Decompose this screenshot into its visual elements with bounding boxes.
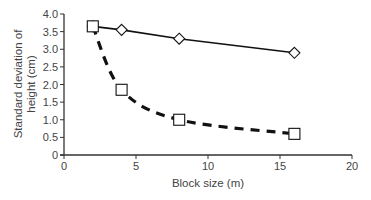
y-axis-label-group: Standard deviation ofheight (cm) xyxy=(12,29,37,138)
y-axis-ticks: 00.51.01.52.02.53.03.54.0 xyxy=(43,8,64,161)
x-tick-label: 5 xyxy=(133,160,139,172)
y-tick-label: 3.5 xyxy=(43,26,58,38)
series-lines xyxy=(93,26,295,134)
y-tick-label: 1.5 xyxy=(43,96,58,108)
y-tick-label: 2.5 xyxy=(43,61,58,73)
x-axis-ticks: 05101520 xyxy=(61,155,358,172)
dashed-series-line xyxy=(93,26,295,134)
y-tick-label: 4.0 xyxy=(43,8,58,20)
y-tick-label: 3.0 xyxy=(43,43,58,55)
y-tick-label: 2.0 xyxy=(43,79,58,91)
diamond-marker xyxy=(116,24,127,35)
y-tick-label: 0.5 xyxy=(43,131,58,143)
y-tick-label: 1.0 xyxy=(43,114,58,126)
x-axis-label: Block size (m) xyxy=(172,177,244,189)
x-tick-label: 15 xyxy=(274,160,286,172)
x-tick-label: 20 xyxy=(346,160,358,172)
y-axis-label-line: height (cm) xyxy=(25,55,37,113)
square-marker xyxy=(87,21,98,32)
y-axis-label-line: Standard deviation of xyxy=(12,29,24,138)
square-marker xyxy=(174,114,185,125)
square-marker xyxy=(289,128,300,139)
y-tick-label: 0 xyxy=(52,149,58,161)
diamond-marker xyxy=(289,47,300,58)
diamond-marker xyxy=(174,33,185,44)
y-axis-label: Standard deviation ofheight (cm) xyxy=(12,29,37,138)
x-tick-label: 10 xyxy=(202,160,214,172)
axes xyxy=(60,14,352,155)
x-tick-label: 0 xyxy=(61,160,67,172)
square-marker xyxy=(116,84,127,95)
chart: Standard deviation ofheight (cm) 0510152… xyxy=(0,0,371,200)
